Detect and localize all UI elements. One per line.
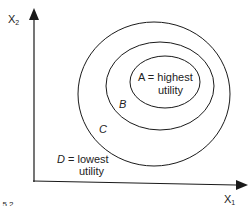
x-axis (33, 181, 236, 185)
curve-d-label: D = lowest (57, 153, 109, 165)
curve-b-label: B (119, 98, 126, 110)
curve-a-label-line2: utility (158, 84, 184, 96)
curve-c-ellipse (78, 22, 230, 166)
y-axis-arrow-icon (29, 8, 39, 20)
figure-caption-fragment: . 5.2 (0, 200, 14, 206)
y-axis-label: X2 (8, 13, 19, 26)
curve-d-label-line2: utility (79, 165, 105, 177)
utility-diagram: X2 X1 A = highest utility B C D = lowest… (0, 0, 252, 206)
curve-a-label: A = highest (138, 71, 193, 83)
curve-c-label: C (99, 123, 107, 135)
x-axis-arrow-icon (236, 180, 248, 190)
x-axis-label: X1 (224, 193, 235, 206)
